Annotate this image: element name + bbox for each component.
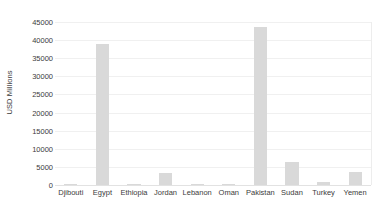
x-axis-tick-label: Egypt	[87, 188, 119, 208]
x-axis-tick-label: Turkey	[308, 188, 340, 208]
gridline	[55, 185, 371, 186]
y-axis-tick-label: 10000	[17, 144, 53, 153]
bar[interactable]	[64, 184, 77, 185]
x-axis-tick-label: Yemen	[339, 188, 371, 208]
bar-slot	[181, 22, 213, 185]
y-axis-tick-label: 40000	[17, 36, 53, 45]
bar-slot	[55, 22, 87, 185]
y-axis-tick-label: 25000	[17, 90, 53, 99]
y-axis-tick-label: 35000	[17, 54, 53, 63]
y-axis-tick-label: 0	[17, 181, 53, 190]
x-axis-tick-label: Lebanon	[181, 188, 213, 208]
bar[interactable]	[285, 162, 298, 185]
x-axis-tick-label: Ethiopia	[118, 188, 150, 208]
x-axis-tick-label: Pakistan	[245, 188, 277, 208]
bars-layer	[55, 22, 371, 185]
bar-slot	[150, 22, 182, 185]
bar-slot	[118, 22, 150, 185]
x-axis-tick-label: Djibouti	[55, 188, 87, 208]
x-axis-tick-label: Jordan	[150, 188, 182, 208]
y-axis-tick-label: 15000	[17, 126, 53, 135]
bar[interactable]	[317, 182, 330, 185]
bar-slot	[276, 22, 308, 185]
bar[interactable]	[127, 184, 140, 185]
x-axis-tick-labels: DjiboutiEgyptEthiopiaJordanLebanonOmanPa…	[55, 188, 371, 208]
bar-slot	[213, 22, 245, 185]
bar-slot	[339, 22, 371, 185]
y-axis-tick-label: 30000	[17, 72, 53, 81]
y-axis-tick-label: 5000	[17, 162, 53, 171]
x-axis-tick-label: Oman	[213, 188, 245, 208]
y-axis-tick-label: 20000	[17, 108, 53, 117]
y-axis-tick-labels: 0500010000150002000025000300003500040000…	[12, 0, 53, 215]
bar-slot	[308, 22, 340, 185]
bar-chart: USD Millions 050001000015000200002500030…	[0, 0, 384, 215]
bar-slot	[87, 22, 119, 185]
bar[interactable]	[349, 172, 362, 185]
bar[interactable]	[191, 184, 204, 185]
bar[interactable]	[222, 184, 235, 185]
bar[interactable]	[96, 44, 109, 185]
x-axis-tick-label: Sudan	[276, 188, 308, 208]
bar[interactable]	[159, 173, 172, 185]
y-axis-tick-label: 45000	[17, 18, 53, 27]
bar[interactable]	[254, 27, 267, 185]
plot-right-border	[371, 22, 372, 185]
bar-slot	[245, 22, 277, 185]
